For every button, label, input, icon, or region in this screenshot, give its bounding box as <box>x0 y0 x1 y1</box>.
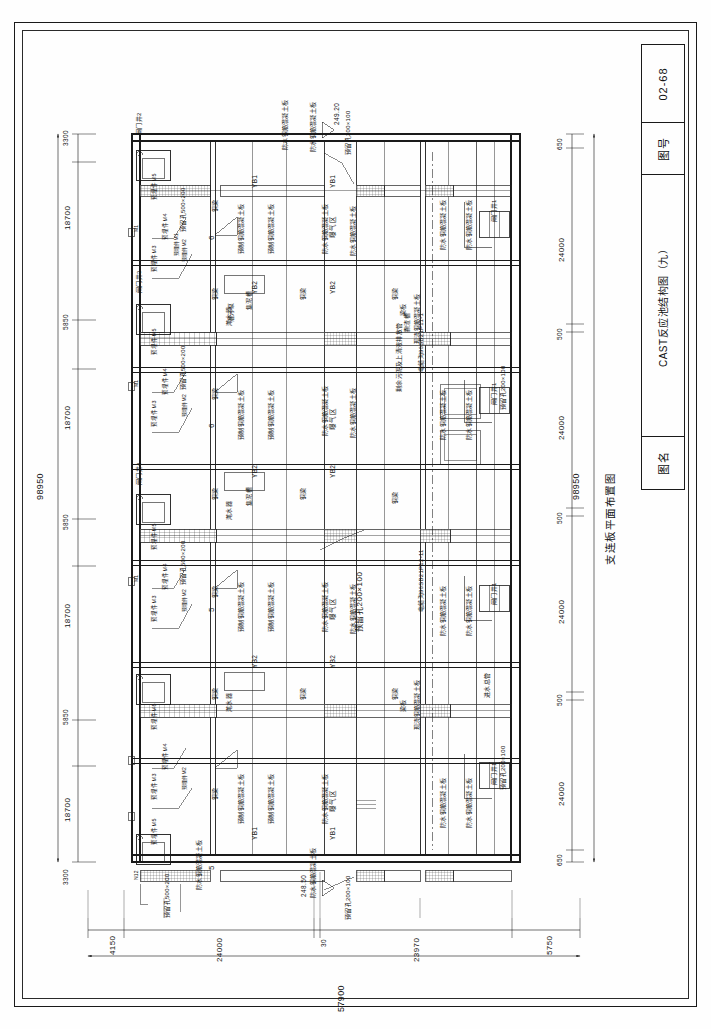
drawing-name-value: CAST反应池结构图（九） <box>656 244 671 367</box>
title-block-name-cell: CAST反应池结构图（九） <box>642 175 684 437</box>
drawing-canvas <box>24 32 636 997</box>
drawing-number-label: 图号 <box>655 137 671 161</box>
drawing-caption: 支连板平面布置图 <box>596 443 622 593</box>
drawing-name-label: 图名 <box>655 451 671 475</box>
drawing-number-value: 02-68 <box>657 67 669 100</box>
drawing-caption-text: 支连板平面布置图 <box>602 472 617 564</box>
title-block-number-cell: 02-68 <box>642 45 684 123</box>
title-block-name-label-cell: 图名 <box>642 437 684 489</box>
title-block: 02-68 图号 CAST反应池结构图（九） 图名 <box>641 44 685 490</box>
drawing-page: 98950 3300 18700 5850 18700 5850 18700 5… <box>0 0 711 1029</box>
title-block-number-label-cell: 图号 <box>642 123 684 175</box>
